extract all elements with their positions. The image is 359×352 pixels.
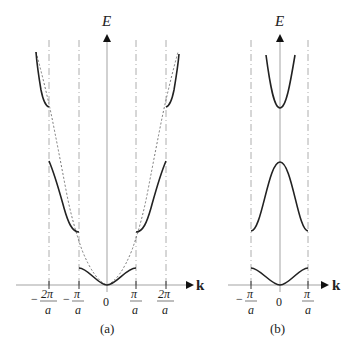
band-structure-figure: E k − 2π a − π a 0 π a 2π a (a)	[0, 0, 359, 352]
band-1-b	[251, 268, 308, 285]
band-2-left-a	[49, 161, 79, 232]
tick-den: a	[132, 303, 138, 317]
tick-den: a	[248, 303, 254, 317]
tick-den: a	[305, 303, 311, 317]
caption-b: (b)	[270, 321, 285, 336]
tick-sign: −	[236, 292, 243, 306]
panel-b: E k − π a 0 π a (b)	[228, 13, 341, 336]
k-axis-label-b: k	[332, 277, 341, 293]
k-axis-label-a: k	[196, 277, 205, 293]
tick-den: a	[75, 303, 81, 317]
panel-a: E k − 2π a − π a 0 π a 2π a (a)	[16, 13, 205, 336]
e-axis-label-b: E	[274, 13, 284, 29]
tick-num: π	[74, 287, 81, 301]
tick-den: a	[162, 303, 168, 317]
tick-den: a	[45, 303, 51, 317]
tick-sign: −	[63, 292, 70, 306]
tick-labels-a: − 2π a − π a 0 π a 2π a	[31, 287, 174, 317]
tick-num: π	[131, 287, 138, 301]
tick-num: 0	[276, 295, 282, 309]
tick-num: π	[304, 287, 311, 301]
band-2-b	[251, 162, 308, 231]
tick-num: 2π	[41, 287, 54, 301]
tick-labels-b: − π a 0 π a	[236, 287, 314, 317]
band-3-b	[266, 55, 295, 108]
tick-num: 2π	[158, 287, 171, 301]
tick-sign: −	[31, 292, 38, 306]
band-1-a	[79, 268, 136, 285]
band-3-right-a	[166, 54, 179, 107]
tick-num: 0	[103, 295, 109, 309]
tick-num: π	[247, 287, 254, 301]
zone-boundary-lines-a	[49, 40, 166, 285]
caption-a: (a)	[100, 321, 114, 336]
e-axis-label-a: E	[101, 13, 111, 29]
